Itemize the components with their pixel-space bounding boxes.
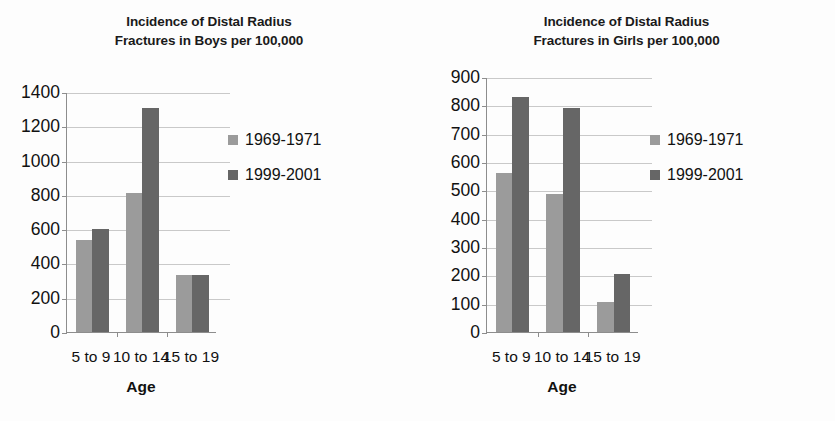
bar-boys-15-to-19-1969-1971 (176, 275, 193, 332)
y-axis-tick (482, 163, 487, 164)
plot-area-girls (486, 78, 638, 333)
y-axis-tick-label: 300 (451, 239, 480, 257)
x-axis-category-label: 15 to 19 (163, 348, 219, 366)
legend-label: 1999-2001 (667, 167, 744, 183)
x-axis-title-boys: Age (66, 378, 216, 396)
legend-swatch-icon (650, 135, 660, 145)
x-axis-category-label: 10 to 14 (534, 348, 590, 366)
bar-boys-5-to-9-1999-2001 (92, 229, 109, 332)
legend-item-1999-2001: 1999-2001 (650, 167, 744, 183)
y-axis-tick-label: 800 (31, 187, 60, 205)
y-axis-tick (62, 162, 67, 163)
y-axis-tick (482, 305, 487, 306)
x-axis-title-girls: Age (486, 378, 638, 396)
y-axis-tick (62, 333, 67, 334)
y-axis-tick-label: 200 (451, 268, 480, 286)
y-axis-tick-label: 1200 (21, 119, 60, 137)
y-axis-tick (482, 276, 487, 277)
y-axis-tick-label: 600 (451, 154, 480, 172)
x-axis-tick (167, 332, 168, 337)
y-axis-tick-label: 0 (470, 324, 480, 342)
bar-girls-10-to-14-1999-2001 (563, 108, 580, 332)
x-axis-tick (117, 332, 118, 337)
bar-girls-5-to-9-1999-2001 (512, 97, 529, 332)
legend-girls: 1969-19711999-2001 (650, 132, 744, 202)
y-axis-tick-label: 1000 (21, 153, 60, 171)
legend-boys: 1969-19711999-2001 (228, 132, 322, 202)
legend-swatch-icon (650, 170, 660, 180)
plot-wrap-girls: 0100200300400500600700800900 5 to 910 to… (418, 0, 835, 421)
y-axis-tick (482, 333, 487, 334)
y-axis-tick (62, 93, 67, 94)
y-axis-tick-label: 500 (451, 183, 480, 201)
bar-boys-10-to-14-1999-2001 (142, 108, 159, 332)
legend-item-1999-2001: 1999-2001 (228, 167, 322, 183)
plot-area-boys (66, 93, 216, 333)
y-axis-tick-label: 0 (50, 324, 60, 342)
legend-swatch-icon (228, 170, 238, 180)
y-axis-tick (482, 220, 487, 221)
bar-girls-15-to-19-1999-2001 (614, 274, 631, 332)
legend-label: 1969-1971 (245, 132, 322, 148)
y-axis-tick-label: 200 (31, 290, 60, 308)
y-axis-tick-label: 400 (451, 211, 480, 229)
y-axis-tick (482, 135, 487, 136)
y-axis-tick-label: 1400 (21, 84, 60, 102)
y-axis-labels-girls: 0100200300400500600700800900 (418, 0, 480, 421)
y-axis-tick-label: 800 (451, 98, 480, 116)
y-axis-tick (482, 248, 487, 249)
y-axis-tick (62, 264, 67, 265)
x-axis-category-label: 5 to 9 (492, 348, 531, 366)
y-axis-tick-label: 900 (451, 69, 480, 87)
y-axis-tick-label: 700 (451, 126, 480, 144)
legend-item-1969-1971: 1969-1971 (228, 132, 322, 148)
y-axis-tick (482, 106, 487, 107)
y-axis-tick (62, 299, 67, 300)
y-axis-tick (482, 78, 487, 79)
bar-boys-10-to-14-1969-1971 (126, 193, 143, 332)
x-axis-category-label: 10 to 14 (113, 348, 169, 366)
bar-girls-15-to-19-1969-1971 (597, 302, 614, 332)
y-axis-tick-label: 400 (31, 256, 60, 274)
y-axis-tick (482, 191, 487, 192)
y-axis-tick-label: 100 (451, 296, 480, 314)
gridline (67, 93, 230, 94)
legend-label: 1969-1971 (667, 132, 744, 148)
x-axis-tick (538, 332, 539, 337)
x-axis-tick (588, 332, 589, 337)
chart-panel-girls: Incidence of Distal Radius Fractures in … (418, 0, 835, 421)
bar-girls-5-to-9-1969-1971 (496, 173, 513, 332)
legend-swatch-icon (228, 135, 238, 145)
x-axis-category-label: 15 to 19 (585, 348, 641, 366)
gridline (487, 78, 652, 79)
bar-girls-10-to-14-1969-1971 (546, 194, 563, 332)
x-axis-category-label: 5 to 9 (72, 348, 111, 366)
bar-boys-15-to-19-1999-2001 (192, 275, 209, 332)
chart-panel-boys: Incidence of Distal Radius Fractures in … (0, 0, 418, 421)
y-axis-tick (62, 196, 67, 197)
y-axis-tick (62, 127, 67, 128)
chart-figure: Incidence of Distal Radius Fractures in … (0, 0, 835, 421)
y-axis-tick (62, 230, 67, 231)
bar-boys-5-to-9-1969-1971 (76, 240, 93, 332)
plot-wrap-boys: 0200400600800100012001400 5 to 910 to 14… (0, 0, 418, 421)
y-axis-labels-boys: 0200400600800100012001400 (0, 0, 60, 421)
y-axis-tick-label: 600 (31, 221, 60, 239)
legend-label: 1999-2001 (245, 167, 322, 183)
legend-item-1969-1971: 1969-1971 (650, 132, 744, 148)
